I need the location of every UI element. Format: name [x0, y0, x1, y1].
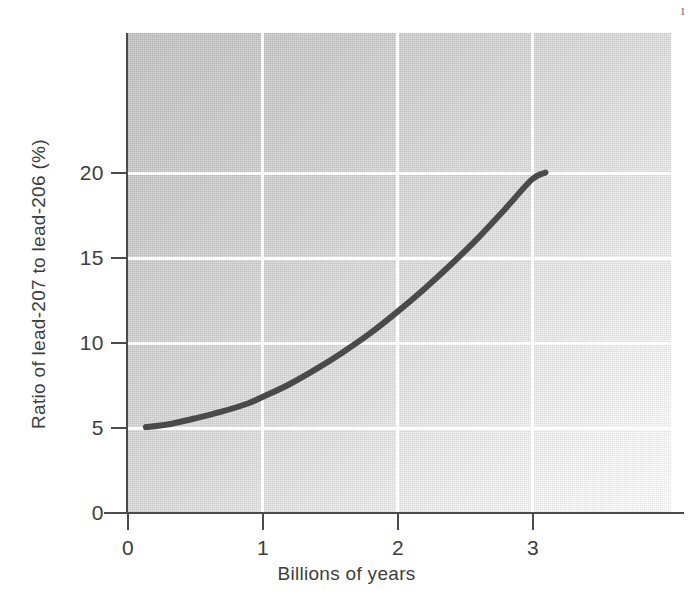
y-tick-label-0: 0	[42, 502, 104, 523]
gridline-horizontal-20	[127, 172, 671, 175]
y-tick-10	[111, 342, 127, 344]
x-tick-label-0: 0	[108, 537, 148, 558]
x-tick-label-2: 2	[378, 537, 418, 558]
gridline-horizontal-5	[127, 427, 671, 430]
x-axis-title: Billions of years	[0, 563, 693, 585]
x-tick-2	[397, 513, 399, 530]
gridline-vertical-2	[396, 33, 399, 513]
y-tick-20	[111, 172, 127, 174]
y-tick-0	[111, 512, 127, 514]
figure-container: ı 20 15 10 5 0 0 1 2 3 Billions of years…	[0, 0, 693, 591]
plot-area	[127, 33, 671, 513]
scan-artifact-mark: ı	[681, 2, 685, 19]
x-tick-0	[127, 513, 129, 530]
y-axis-line	[126, 33, 128, 514]
y-tick-label-10: 10	[42, 332, 104, 353]
x-tick-3	[532, 513, 534, 530]
gridline-horizontal-10	[127, 342, 671, 345]
x-axis-line	[104, 512, 684, 514]
gridline-horizontal-15	[127, 257, 671, 260]
x-tick-label-3: 3	[513, 537, 553, 558]
gridline-vertical-1	[261, 33, 264, 513]
y-tick-label-5: 5	[42, 417, 104, 438]
y-tick-5	[111, 427, 127, 429]
x-tick-label-1: 1	[243, 537, 283, 558]
y-tick-label-20: 20	[42, 162, 104, 183]
y-tick-label-15: 15	[42, 247, 104, 268]
gridline-vertical-3	[531, 33, 534, 513]
x-tick-1	[262, 513, 264, 530]
plot-texture	[127, 33, 671, 513]
y-tick-15	[111, 257, 127, 259]
y-axis-title: Ratio of lead-207 to lead-206 (%)	[28, 34, 50, 534]
